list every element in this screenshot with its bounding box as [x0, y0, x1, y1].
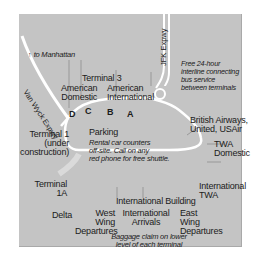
twa-domestic-label: TWA Domestic: [214, 140, 250, 158]
american-international-label: American International: [107, 84, 154, 102]
international-building-label: International Building: [116, 197, 196, 206]
delta-label: Delta: [52, 211, 72, 220]
british-airways-label: British Airways, United, USAir: [190, 116, 248, 134]
terminal-3-label: Terminal 3: [82, 74, 122, 83]
international-arrivals-label: International Arrivals: [117, 209, 175, 227]
terminal-1a-label: Terminal 1A: [31, 180, 67, 198]
terminal-1-label: Terminal 1 (under construction): [19, 130, 69, 157]
west-wing-departures-label: West Wing Departures: [75, 209, 115, 236]
airport-map: ↑ to Manhattan Van Wyck Expwy JFK Expwy …: [19, 14, 242, 247]
gate-d: D: [69, 110, 75, 119]
gate-a: A: [127, 110, 133, 119]
parking-note: Rental car counters off-site. Call on an…: [89, 139, 170, 163]
baggage-claim-note: Baggage claim on lower level of each ter…: [104, 233, 194, 249]
parking-title: Parking: [89, 128, 118, 137]
international-twa-label: International TWA: [199, 182, 246, 200]
arrow-up-icon: ↑: [28, 51, 31, 58]
bus-service-note: Free 24-hour interline connecting bus se…: [181, 60, 239, 92]
jfk-expwy-label: JFK Expwy: [159, 28, 168, 66]
gate-c: C: [85, 107, 91, 116]
american-domestic-label: American Domestic: [61, 84, 97, 102]
gate-b: B: [107, 108, 113, 117]
to-manhattan-label: ↑ to Manhattan: [28, 50, 75, 59]
